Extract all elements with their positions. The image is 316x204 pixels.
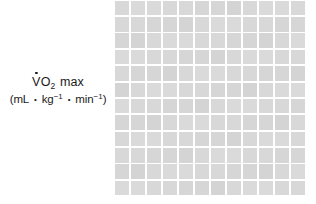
grid-cell (211, 50, 225, 65)
grid-cell (115, 164, 129, 179)
grid-cell (259, 17, 273, 32)
grid-cell (115, 66, 129, 81)
grid-cell (195, 1, 209, 16)
grid-cell (291, 66, 305, 81)
grid-cell (211, 17, 225, 32)
grid-cell (179, 148, 193, 163)
grid-cell (227, 132, 241, 147)
grid-cell (195, 132, 209, 147)
grid-cell (275, 99, 289, 114)
grid-cell (147, 33, 161, 48)
grid-cell (259, 181, 273, 196)
grid-cell (115, 1, 129, 16)
grid-cell (195, 66, 209, 81)
grid-cell (291, 148, 305, 163)
grid-cell (147, 50, 161, 65)
grid-cell (179, 50, 193, 65)
grid-cell (275, 50, 289, 65)
grid-cell (163, 33, 177, 48)
grid-cell (115, 115, 129, 130)
grid-cell (115, 132, 129, 147)
grid-cell (147, 1, 161, 16)
grid-cell (115, 99, 129, 114)
grid-cell (275, 181, 289, 196)
grid-cell (259, 66, 273, 81)
close-paren: ) (103, 93, 107, 105)
grid-cell (291, 132, 305, 147)
grid-cell (163, 115, 177, 130)
grid-cell (243, 1, 257, 16)
unit-volume: mL (13, 93, 29, 105)
grid-cell (115, 50, 129, 65)
grid-cell (243, 99, 257, 114)
grid-cell (275, 148, 289, 163)
grid-cell (163, 66, 177, 81)
grid-cell (163, 17, 177, 32)
grid-cell (275, 164, 289, 179)
grid-cell (275, 33, 289, 48)
grid-cell (291, 83, 305, 98)
grid-cell (259, 132, 273, 147)
grid-cell (163, 50, 177, 65)
grid-cell (275, 83, 289, 98)
grid-cell (259, 148, 273, 163)
y-axis-label-line-1: VO2 max (6, 76, 110, 90)
grid-cell (275, 132, 289, 147)
grid-cell (243, 50, 257, 65)
grid-cell (179, 1, 193, 16)
grid-cell (115, 33, 129, 48)
grid-cell (243, 17, 257, 32)
mass-exponent: −1 (54, 92, 63, 101)
y-axis-label: VO2 max (mL • kg−1 • min−1) (6, 76, 110, 105)
grid-cell (147, 99, 161, 114)
grid-cell (259, 50, 273, 65)
grid-cell (227, 148, 241, 163)
grid-cell (227, 1, 241, 16)
graph-paper-grid (114, 0, 306, 196)
qualifier-max: max (60, 75, 84, 89)
grid-cell (147, 181, 161, 196)
grid-cell (243, 164, 257, 179)
grid-cell (243, 83, 257, 98)
grid-cell (115, 17, 129, 32)
grid-cell (243, 148, 257, 163)
grid-cell (291, 17, 305, 32)
time-exponent: −1 (94, 92, 103, 101)
grid-cell (163, 148, 177, 163)
grid-cell (211, 66, 225, 81)
grid-cell (163, 181, 177, 196)
grid-cell (243, 115, 257, 130)
grid-cell (291, 164, 305, 179)
grid-cell (163, 99, 177, 114)
grid-cell (195, 115, 209, 130)
grid-cell (147, 132, 161, 147)
grid-cell (259, 99, 273, 114)
grid-cell (275, 115, 289, 130)
grid-cell (115, 83, 129, 98)
grid-cell (195, 83, 209, 98)
grid-cell (195, 33, 209, 48)
grid-cell (259, 115, 273, 130)
grid-cell (211, 132, 225, 147)
grid-cell (275, 1, 289, 16)
unit-mass: kg (42, 93, 54, 105)
spacer-1 (29, 93, 33, 105)
grid-cell (131, 1, 145, 16)
grid-cell (195, 148, 209, 163)
grid-cell (227, 115, 241, 130)
overdot-icon (35, 72, 37, 74)
grid-cell (131, 132, 145, 147)
grid-cell (291, 99, 305, 114)
grid-cell (227, 164, 241, 179)
plot-area (114, 0, 306, 196)
grid-cell (243, 33, 257, 48)
grid-cell (115, 181, 129, 196)
grid-cell (259, 83, 273, 98)
grid-cell (259, 164, 273, 179)
grid-cell (179, 17, 193, 32)
grid-cell (275, 17, 289, 32)
grid-cell (179, 99, 193, 114)
grid-cell (179, 164, 193, 179)
grid-cell (195, 50, 209, 65)
grid-cell (131, 164, 145, 179)
